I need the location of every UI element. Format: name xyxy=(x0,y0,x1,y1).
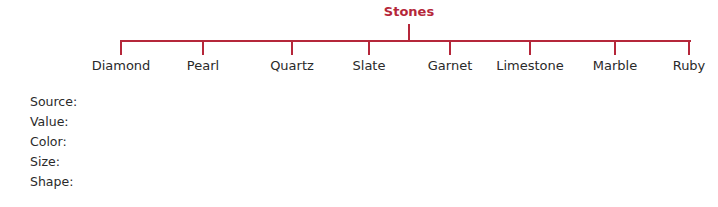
property-shape: Shape: xyxy=(30,172,77,192)
child-label-limestone: Limestone xyxy=(496,58,564,73)
child-label-ruby: Ruby xyxy=(673,58,706,73)
property-value: Value: xyxy=(30,112,77,132)
child-connector xyxy=(120,40,122,55)
child-label-quartz: Quartz xyxy=(270,58,314,73)
branch-line xyxy=(121,40,691,42)
root-label: Stones xyxy=(384,4,434,19)
child-connector xyxy=(368,40,370,55)
child-connector xyxy=(614,40,616,55)
property-size: Size: xyxy=(30,152,77,172)
child-connector xyxy=(449,40,451,55)
child-label-pearl: Pearl xyxy=(187,58,219,73)
child-label-diamond: Diamond xyxy=(92,58,151,73)
child-label-slate: Slate xyxy=(353,58,386,73)
property-source: Source: xyxy=(30,92,77,112)
root-connector xyxy=(408,24,410,41)
child-connector xyxy=(291,40,293,55)
child-connector xyxy=(688,40,690,55)
child-label-garnet: Garnet xyxy=(428,58,473,73)
property-color: Color: xyxy=(30,132,77,152)
child-connector xyxy=(529,40,531,55)
property-list: Source: Value: Color: Size: Shape: xyxy=(30,92,77,192)
child-connector xyxy=(202,40,204,55)
child-label-marble: Marble xyxy=(593,58,637,73)
